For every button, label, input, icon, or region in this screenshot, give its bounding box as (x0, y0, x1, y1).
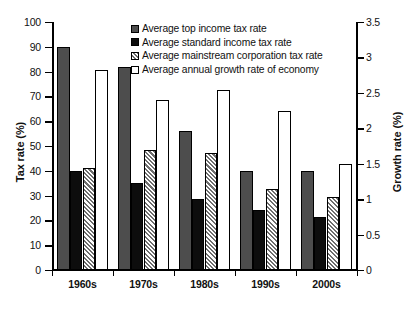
x-axis-tick (174, 270, 175, 276)
legend-label: Average standard income tax rate (142, 36, 292, 50)
y-axis-left-tick (45, 171, 52, 172)
y-axis-right-tick (357, 164, 364, 165)
y-axis-left-tick (45, 96, 52, 97)
legend-label: Average top income tax rate (142, 22, 267, 36)
bar (192, 199, 205, 270)
bar (314, 217, 327, 270)
x-axis-tick-label: 2000s (312, 278, 341, 290)
legend-swatch-icon (131, 66, 139, 74)
y-axis-left-tick (45, 245, 52, 246)
y-axis-left-tick-label: 90 (11, 41, 41, 53)
bar (240, 171, 253, 270)
legend-label: Average mainstream corporation tax rate (142, 49, 323, 63)
bar (301, 171, 314, 270)
y-axis-right-tick (357, 57, 364, 58)
y-axis-left-tick-label: 50 (11, 140, 41, 152)
x-axis-tick (235, 270, 236, 276)
y-axis-right-tick-label: 0 (366, 264, 398, 276)
y-axis-left-tick (45, 220, 52, 221)
x-axis-tick (52, 270, 53, 276)
y-axis-right-tick (357, 22, 364, 23)
bar (57, 47, 70, 270)
bar (339, 164, 352, 270)
y-axis-right-tick (357, 128, 364, 129)
y-axis-left-tick-label: 20 (11, 214, 41, 226)
y-axis-right-tick-label: 1.5 (366, 158, 398, 170)
bar (217, 90, 230, 270)
y-axis-left-tick-label: 60 (11, 115, 41, 127)
x-axis-tick-label: 1960s (68, 278, 97, 290)
x-axis-tick (296, 270, 297, 276)
chart-legend: Average top income tax rateAverage stand… (131, 22, 323, 76)
y-axis-right-tick-label: 0.5 (366, 229, 398, 241)
legend-swatch-icon (131, 52, 139, 60)
x-axis-tick-label: 1980s (190, 278, 219, 290)
bar (327, 197, 340, 270)
bar (179, 131, 192, 270)
x-axis-tick-label: 1970s (129, 278, 158, 290)
y-axis-right-tick (357, 235, 364, 236)
legend-item: Average standard income tax rate (131, 36, 323, 50)
y-axis-left-tick (45, 270, 52, 271)
x-axis-tick (113, 270, 114, 276)
legend-label: Average annual growth rate of economy (142, 63, 319, 77)
legend-swatch-icon (131, 25, 139, 33)
y-axis-left-tick-label: 70 (11, 90, 41, 102)
y-axis-left-tick-label: 80 (11, 66, 41, 78)
legend-swatch-icon (131, 38, 139, 46)
bar (266, 189, 279, 270)
y-axis-left-tick (45, 196, 52, 197)
bar (253, 210, 266, 270)
y-axis-left-tick (45, 121, 52, 122)
y-axis-left-tick (45, 47, 52, 48)
y-axis-left-tick-label: 40 (11, 165, 41, 177)
y-axis-right-tick-label: 1 (366, 193, 398, 205)
legend-item: Average annual growth rate of economy (131, 63, 323, 77)
chart-container: Tax rate (%) Growth rate (%) 01020304050… (0, 0, 410, 323)
legend-item: Average top income tax rate (131, 22, 323, 36)
y-axis-left-tick-label: 30 (11, 190, 41, 202)
y-axis-left-tick (45, 72, 52, 73)
legend-item: Average mainstream corporation tax rate (131, 49, 323, 63)
x-axis-tick (357, 270, 358, 276)
bar (95, 70, 108, 270)
y-axis-right-tick-label: 2 (366, 122, 398, 134)
y-axis-left-tick-label: 10 (11, 239, 41, 251)
bar (83, 168, 96, 270)
bar (70, 171, 83, 270)
bar (278, 111, 291, 270)
y-axis-left-tick-label: 0 (11, 264, 41, 276)
y-axis-right-tick (357, 93, 364, 94)
bar (118, 67, 131, 270)
y-axis-right-tick (357, 199, 364, 200)
bar (156, 100, 169, 270)
y-axis-left-tick-label: 100 (11, 16, 41, 28)
bar (144, 150, 157, 270)
y-axis-right-tick-label: 3 (366, 51, 398, 63)
bar (131, 183, 144, 270)
y-axis-right-tick-label: 2.5 (366, 87, 398, 99)
y-axis-left-tick (45, 146, 52, 147)
y-axis-right-tick-label: 3.5 (366, 16, 398, 28)
x-axis-tick-label: 1990s (251, 278, 280, 290)
y-axis-left-tick (45, 22, 52, 23)
bar (205, 153, 218, 270)
